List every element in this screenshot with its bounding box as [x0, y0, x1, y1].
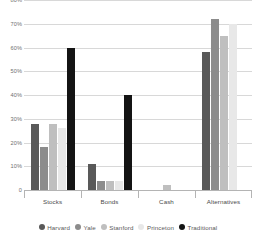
- legend-label: Princeton: [147, 224, 174, 231]
- category-label: Cash: [138, 190, 195, 212]
- bar-group: [138, 0, 195, 190]
- plot-area: 80%70%60%50%40%30%20%10%0: [0, 0, 256, 214]
- y-axis-tick-label: 80%: [11, 0, 23, 3]
- y-axis-tick-label: 70%: [11, 21, 23, 27]
- axis-tick-mark: [138, 190, 139, 198]
- bar[interactable]: [67, 48, 75, 191]
- legend-item[interactable]: Traditional: [179, 224, 217, 231]
- bar[interactable]: [106, 181, 114, 191]
- category-label-text: Stocks: [43, 198, 62, 205]
- y-axis-tick-label: 60%: [11, 45, 23, 51]
- legend-swatch-icon: [101, 224, 107, 230]
- bar-group: [81, 0, 138, 190]
- axis-tick-mark: [195, 190, 196, 198]
- category-label: Stocks: [24, 190, 81, 212]
- bar[interactable]: [202, 52, 210, 190]
- y-axis-tick-label: 50%: [11, 68, 23, 74]
- bar[interactable]: [229, 24, 237, 190]
- bar-group: [195, 0, 252, 190]
- category-axis: StocksBondsCashAlternatives: [24, 190, 252, 212]
- legend-label: Harvard: [47, 224, 70, 231]
- axis-tick-mark: [24, 190, 25, 198]
- bar[interactable]: [97, 181, 105, 191]
- axis-tick-mark: [251, 190, 252, 198]
- legend-item[interactable]: Princeton: [138, 224, 174, 231]
- y-axis-tick-label: 30%: [11, 116, 23, 122]
- legend: HarvardYaleStanfordPrincetonTraditional: [0, 218, 256, 236]
- category-row: StocksBondsCashAlternatives: [24, 190, 252, 212]
- legend-label: Stanford: [109, 224, 133, 231]
- legend-item[interactable]: Harvard: [39, 224, 70, 231]
- bar[interactable]: [31, 124, 39, 191]
- bar[interactable]: [58, 128, 66, 190]
- bar[interactable]: [88, 164, 96, 190]
- legend-label: Yale: [83, 224, 95, 231]
- bar[interactable]: [49, 124, 57, 191]
- legend-swatch-icon: [138, 224, 144, 230]
- y-axis: 80%70%60%50%40%30%20%10%0: [0, 0, 24, 190]
- legend-label: Traditional: [188, 224, 218, 231]
- bar[interactable]: [220, 36, 228, 190]
- legend-item[interactable]: Stanford: [101, 224, 134, 231]
- bar[interactable]: [115, 181, 123, 191]
- axis-tick-mark: [81, 190, 82, 198]
- bar[interactable]: [124, 95, 132, 190]
- category-label-text: Bonds: [100, 198, 118, 205]
- category-label: Bonds: [81, 190, 138, 212]
- category-label-text: Cash: [159, 198, 174, 205]
- y-axis-tick-label: 0: [19, 187, 22, 193]
- legend-swatch-icon: [179, 224, 185, 230]
- legend-swatch-icon: [75, 224, 81, 230]
- y-axis-tick-label: 20%: [11, 140, 23, 146]
- bar[interactable]: [40, 147, 48, 190]
- bar-group: [24, 0, 81, 190]
- category-label: Alternatives: [195, 190, 252, 212]
- grouped-bar-chart: 80%70%60%50%40%30%20%10%0 StocksBondsCas…: [0, 0, 256, 240]
- y-axis-tick-label: 40%: [11, 92, 23, 98]
- bars-layer: [24, 0, 252, 190]
- legend-swatch-icon: [39, 224, 45, 230]
- y-axis-tick-label: 10%: [11, 163, 23, 169]
- category-label-text: Alternatives: [207, 198, 241, 205]
- legend-item[interactable]: Yale: [75, 224, 96, 231]
- bar[interactable]: [211, 19, 219, 190]
